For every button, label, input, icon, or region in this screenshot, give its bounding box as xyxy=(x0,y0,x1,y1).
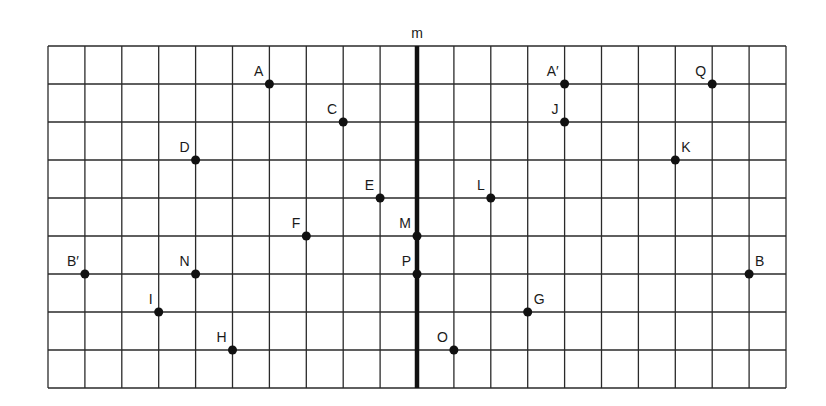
point-dot xyxy=(191,270,200,279)
point-h: H xyxy=(216,329,237,355)
point-o: O xyxy=(437,329,458,355)
point-label: I xyxy=(149,291,153,307)
point-label: O xyxy=(437,329,448,345)
point-label: A xyxy=(254,63,264,79)
point-label: A′ xyxy=(547,63,559,79)
reflection-diagram: m ACDEFMPB′NIHA′QJKLBGO xyxy=(0,0,826,406)
point-label: F xyxy=(292,215,301,231)
point-a: A xyxy=(254,63,274,89)
point-j: J xyxy=(552,101,570,127)
point-i: I xyxy=(149,291,163,317)
point-label: B′ xyxy=(67,253,79,269)
point-dot xyxy=(523,308,532,317)
point-label: Q xyxy=(695,63,706,79)
mirror-line-label: m xyxy=(411,25,423,41)
point-label: D xyxy=(179,139,189,155)
point-label: B xyxy=(755,253,764,269)
point-label: E xyxy=(365,177,374,193)
point-q: Q xyxy=(695,63,716,89)
point-b: B xyxy=(745,253,765,279)
point-k: K xyxy=(671,139,692,165)
point-b-prime: B′ xyxy=(67,253,89,279)
point-l: L xyxy=(477,177,495,203)
point-dot xyxy=(671,156,680,165)
point-label: K xyxy=(681,139,691,155)
point-label: C xyxy=(327,101,337,117)
point-dot xyxy=(339,118,348,127)
point-dot xyxy=(413,232,422,241)
point-label: H xyxy=(216,329,226,345)
point-label: G xyxy=(534,291,545,307)
point-dot xyxy=(154,308,163,317)
point-dot xyxy=(708,80,717,89)
point-d: D xyxy=(179,139,200,165)
point-dot xyxy=(265,80,274,89)
point-label: N xyxy=(179,253,189,269)
point-label: L xyxy=(477,177,485,193)
point-dot xyxy=(228,346,237,355)
point-f: F xyxy=(292,215,311,241)
point-n: N xyxy=(179,253,200,279)
point-dot xyxy=(449,346,458,355)
point-dot xyxy=(80,270,89,279)
point-label: J xyxy=(552,101,559,117)
point-dot xyxy=(191,156,200,165)
point-dot xyxy=(302,232,311,241)
point-label: P xyxy=(402,253,411,269)
point-e: E xyxy=(365,177,385,203)
point-dot xyxy=(486,194,495,203)
point-a-prime: A′ xyxy=(547,63,569,89)
point-c: C xyxy=(327,101,348,127)
point-dot xyxy=(560,118,569,127)
point-g: G xyxy=(523,291,544,317)
point-label: M xyxy=(399,215,411,231)
point-dot xyxy=(560,80,569,89)
point-dot xyxy=(745,270,754,279)
point-dot xyxy=(376,194,385,203)
point-dot xyxy=(413,270,422,279)
